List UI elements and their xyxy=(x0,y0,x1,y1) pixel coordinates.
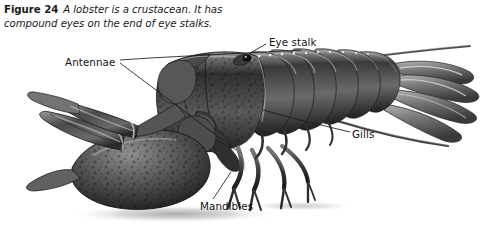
label-antennae: Antennae xyxy=(65,57,115,68)
label-mandibles: Mandibles xyxy=(200,201,253,212)
figure-container: Figure 24A lobster is a crustacean. It h… xyxy=(0,0,503,232)
leader-antennae-upper xyxy=(120,50,301,60)
leader-lines xyxy=(0,0,503,232)
leader-gills xyxy=(263,110,350,132)
label-gills: Gills xyxy=(352,129,374,140)
figure-caption: Figure 24A lobster is a crustacean. It h… xyxy=(4,3,264,30)
leader-antennae-lower xyxy=(120,63,236,150)
label-eye-stalk: Eye stalk xyxy=(269,37,317,48)
leader-mandibles xyxy=(213,172,231,199)
leader-eye-stalk xyxy=(243,44,266,57)
figure-number: Figure 24 xyxy=(4,4,58,15)
